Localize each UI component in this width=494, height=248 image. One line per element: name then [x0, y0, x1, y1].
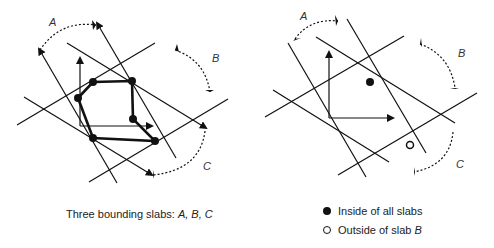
slab-a-line-1: [288, 43, 366, 177]
legend-outside: Outside of slab B: [323, 224, 422, 236]
slab-a-line-2: [347, 19, 426, 153]
slab-b-line-1: [67, 43, 206, 128]
label-c-left: C: [203, 160, 211, 172]
legend-outside-slab: B: [414, 224, 421, 236]
rotation-arc-c: [414, 132, 453, 172]
left-panel: [17, 23, 228, 183]
slab-b-line-2: [273, 90, 389, 162]
caption-prefix: Three bounding slabs:: [66, 208, 178, 220]
slab-b-line-1: [316, 37, 455, 123]
rotation-arc-a: [40, 24, 96, 50]
legend-inside: Inside of all slabs: [323, 205, 422, 217]
rotation-arc-c: [153, 131, 205, 175]
label-c-right: C: [456, 158, 464, 170]
slab-a-line-1: [39, 49, 117, 183]
left-caption: Three bounding slabs: A, B, C: [66, 208, 213, 220]
rotation-arc-b: [420, 44, 455, 88]
label-a-right: A: [299, 10, 307, 22]
filled-circle-icon: [323, 207, 331, 215]
label-b-right: B: [458, 47, 465, 59]
outside-point: [407, 142, 414, 149]
slab-diagrams: A B C A B C: [0, 0, 494, 200]
legend-inside-label: Inside of all slabs: [338, 205, 422, 217]
rotation-arc-b: [175, 50, 210, 92]
legend-outside-prefix: Outside of slab: [338, 224, 411, 236]
caption-slabs: A, B, C: [178, 208, 213, 220]
hollow-circle-icon: [323, 226, 331, 234]
rotation-arc-a: [295, 21, 338, 39]
right-panel: [265, 19, 477, 177]
inside-point: [366, 78, 374, 86]
label-a-left: A: [48, 16, 56, 28]
label-b-left: B: [212, 52, 219, 64]
